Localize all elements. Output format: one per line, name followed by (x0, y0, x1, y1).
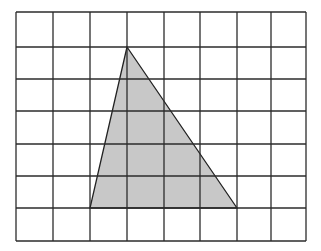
grid-diagram (0, 0, 321, 251)
